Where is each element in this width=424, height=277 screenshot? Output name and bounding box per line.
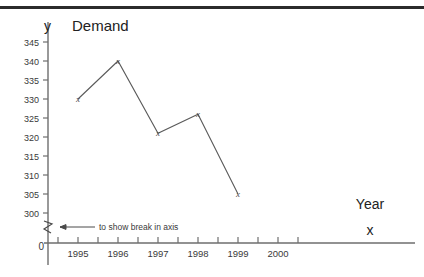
axis-break-marker	[44, 221, 52, 233]
data-point-marker: x	[155, 128, 160, 138]
chart-figure: 300305310315320325330335340345 199519961…	[0, 0, 424, 277]
x-tick-label: 1998	[187, 248, 208, 259]
x-tick-label: 1997	[147, 248, 168, 259]
x-tick-group	[58, 237, 298, 243]
x-tick-label: 2000	[267, 248, 288, 259]
y-axis-zero-label: 0	[38, 241, 44, 252]
chart-title: Demand	[72, 17, 129, 34]
y-tick-label: 335	[24, 76, 39, 86]
y-tick-label: 325	[24, 114, 39, 124]
y-tick-label-group: 300305310315320325330335340345	[24, 38, 39, 219]
y-tick-label: 340	[24, 57, 39, 67]
x-axis-title: Year	[356, 196, 385, 212]
y-tick-label: 305	[24, 190, 39, 200]
data-point-marker: x	[75, 94, 80, 104]
demand-line-chart: 300305310315320325330335340345 199519961…	[0, 0, 424, 277]
data-marker-group: xxxxx	[75, 56, 240, 199]
data-point-marker: x	[115, 56, 120, 66]
y-tick-label: 320	[24, 133, 39, 143]
y-tick-label: 310	[24, 171, 39, 181]
data-point-marker: x	[195, 109, 200, 119]
x-axis-letter-label: x	[367, 222, 374, 238]
data-point-marker: x	[235, 189, 240, 199]
x-tick-label: 1996	[107, 248, 128, 259]
y-tick-label: 330	[24, 95, 39, 105]
y-tick-label: 315	[24, 152, 39, 162]
arrow-head-icon	[60, 225, 66, 230]
y-tick-label: 345	[24, 38, 39, 48]
x-tick-label: 1999	[227, 248, 248, 259]
zigzag-icon	[44, 221, 52, 233]
y-axis-letter-label: y	[44, 18, 51, 34]
y-tick-group	[43, 42, 48, 213]
annotation-label: to show break in axis	[99, 222, 178, 232]
x-tick-label: 1995	[67, 248, 88, 259]
y-tick-label: 300	[24, 209, 39, 219]
axis-break-annotation: to show break in axis	[60, 222, 178, 232]
x-tick-label-group: 199519961997199819992000	[67, 248, 288, 259]
